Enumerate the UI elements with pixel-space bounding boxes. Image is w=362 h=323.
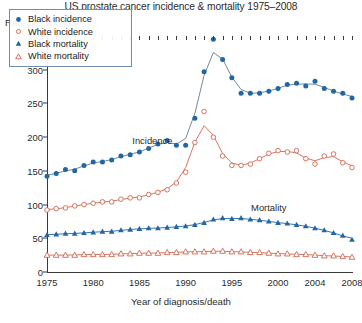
data-point (248, 162, 253, 167)
x-tick-mark (186, 36, 187, 40)
data-point (230, 163, 235, 168)
y-tick-mark (43, 137, 47, 138)
data-point (165, 187, 170, 192)
data-point (266, 89, 271, 94)
data-point (294, 81, 299, 86)
data-point (284, 251, 290, 256)
data-point (267, 151, 272, 156)
data-point (211, 248, 217, 253)
data-point (350, 96, 355, 101)
y-tick-mark (43, 103, 47, 104)
x-tick-mark (167, 36, 168, 40)
y-tick-label: 100 (27, 199, 43, 210)
x-tick-label: 1995 (221, 277, 242, 288)
data-point (340, 160, 345, 165)
x-tick-mark (324, 36, 325, 40)
data-point (331, 152, 336, 157)
legend-label: Black mortality (28, 39, 88, 49)
x-tick-mark (204, 36, 205, 40)
data-point (238, 249, 244, 254)
y-tick-label: 250 (27, 98, 43, 109)
data-point (100, 160, 105, 165)
data-point (322, 154, 327, 159)
data-point (128, 196, 133, 201)
x-tick-mark (195, 36, 196, 40)
data-point (100, 200, 105, 205)
data-point (238, 215, 244, 220)
data-point (137, 250, 143, 255)
filled-circle-icon (15, 16, 22, 23)
data-point (156, 190, 161, 195)
data-point (202, 109, 207, 114)
x-tick-label: 1975 (37, 277, 58, 288)
data-point (82, 202, 87, 207)
x-tick-label: 1985 (129, 277, 150, 288)
data-point (128, 152, 133, 157)
legend-label: White incidence (28, 27, 93, 37)
data-point (118, 154, 123, 159)
x-tick-mark (213, 36, 214, 40)
x-axis-line (47, 272, 353, 273)
chart-annotation: Incidence (132, 134, 172, 145)
x-tick-mark (287, 36, 288, 40)
x-tick-mark (343, 36, 344, 40)
data-point (45, 174, 50, 179)
data-point (220, 215, 226, 220)
data-point (192, 116, 197, 121)
x-tick-mark (269, 36, 270, 40)
data-point (81, 251, 87, 256)
data-point (248, 91, 253, 96)
y-tick-mark (43, 69, 47, 70)
data-point (109, 200, 114, 205)
data-point (276, 86, 281, 91)
data-point (257, 156, 262, 161)
trend-line (47, 218, 352, 238)
chart-legend: Black incidenceWhite incidenceBlack mort… (9, 9, 132, 67)
data-point (146, 192, 151, 197)
chart-annotation: Mortality (251, 201, 286, 212)
y-tick-mark (43, 238, 47, 239)
open-triangle-icon (15, 53, 22, 60)
x-tick-label: 1980 (83, 277, 104, 288)
data-point (164, 249, 170, 254)
data-point (72, 204, 77, 209)
data-point (276, 148, 281, 153)
data-point (137, 196, 142, 201)
legend-item: White mortality (15, 50, 127, 62)
x-tick-mark (139, 36, 140, 40)
data-point (257, 249, 263, 254)
series-black-mortality (44, 215, 355, 242)
legend-item: White incidence (15, 25, 127, 37)
series-white-mortality (44, 248, 355, 259)
x-tick-mark (315, 36, 316, 40)
data-point (313, 79, 318, 84)
data-point (183, 170, 188, 175)
data-point (54, 206, 59, 211)
legend-label: White mortality (28, 51, 89, 61)
x-tick-mark (241, 36, 242, 40)
data-point (303, 251, 309, 256)
data-point (183, 249, 189, 254)
data-point (303, 156, 308, 161)
x-tick-mark (223, 36, 224, 40)
x-axis-label: Year of diagnosis/death (0, 296, 362, 307)
data-point (63, 167, 68, 172)
x-tick-mark (260, 36, 261, 40)
x-tick-mark (250, 36, 251, 40)
x-tick-label: 2004 (305, 277, 326, 288)
legend-label: Black incidence (28, 14, 92, 24)
data-point (350, 165, 355, 170)
x-tick-mark (176, 36, 177, 40)
y-tick-mark (43, 272, 47, 273)
data-point (109, 158, 114, 163)
data-point (72, 168, 77, 173)
data-point (331, 253, 337, 258)
y-tick-mark (43, 170, 47, 171)
chart-figure: US prostate cancer incidence & mortality… (0, 0, 362, 323)
legend-item: Black incidence (15, 13, 127, 25)
x-tick-mark (352, 36, 353, 40)
data-point (313, 162, 318, 167)
data-point (45, 208, 50, 213)
data-point (211, 135, 216, 140)
data-point (294, 148, 299, 153)
